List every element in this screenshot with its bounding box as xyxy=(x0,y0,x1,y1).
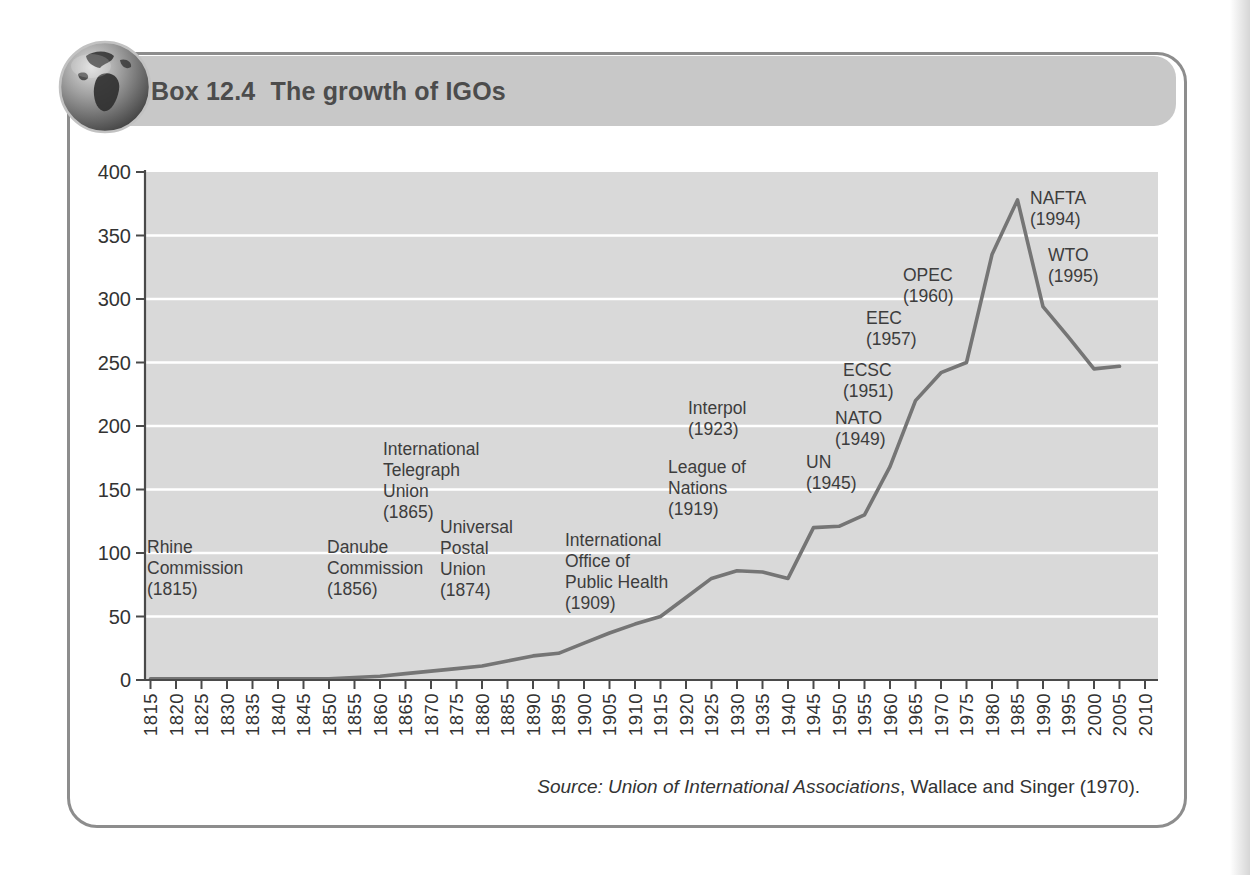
x-tick-label-2010: 2010 xyxy=(1135,693,1156,736)
source-caption-regular: , Wallace and Singer (1970). xyxy=(900,776,1140,797)
x-tick-label-1820: 1820 xyxy=(166,693,187,736)
igo-growth-chart: 0501001502002503003504001815182018251830… xyxy=(0,0,1250,875)
y-tick-label-200: 200 xyxy=(98,415,131,437)
x-tick-label-1930: 1930 xyxy=(727,693,748,736)
x-tick-label-1960: 1960 xyxy=(880,693,901,736)
x-tick-label-1825: 1825 xyxy=(191,693,212,736)
y-tick-label-0: 0 xyxy=(120,669,131,691)
annotation-interpol: Interpol(1923) xyxy=(688,398,746,439)
x-tick-label-1910: 1910 xyxy=(625,693,646,736)
x-tick-label-1980: 1980 xyxy=(982,693,1003,736)
x-tick-label-1830: 1830 xyxy=(217,693,238,736)
x-tick-label-1905: 1905 xyxy=(599,693,620,736)
x-tick-label-1935: 1935 xyxy=(752,693,773,736)
y-tick-label-250: 250 xyxy=(98,352,131,374)
y-tick-label-400: 400 xyxy=(98,161,131,183)
x-tick-label-1835: 1835 xyxy=(242,693,263,736)
y-tick-label-300: 300 xyxy=(98,288,131,310)
x-tick-label-2005: 2005 xyxy=(1109,693,1130,736)
y-tick-label-50: 50 xyxy=(109,606,131,628)
x-tick-label-1975: 1975 xyxy=(956,693,977,736)
x-tick-label-1840: 1840 xyxy=(268,693,289,736)
y-tick-label-100: 100 xyxy=(98,542,131,564)
x-tick-label-1950: 1950 xyxy=(829,693,850,736)
source-caption: Source: Union of International Associati… xyxy=(537,776,1140,798)
x-tick-label-1855: 1855 xyxy=(344,693,365,736)
x-tick-label-1925: 1925 xyxy=(701,693,722,736)
source-caption-italic: Source: Union of International Associati… xyxy=(537,776,900,797)
x-tick-label-1900: 1900 xyxy=(574,693,595,736)
x-tick-label-1865: 1865 xyxy=(395,693,416,736)
x-tick-label-1970: 1970 xyxy=(931,693,952,736)
x-tick-label-1860: 1860 xyxy=(370,693,391,736)
x-tick-label-1890: 1890 xyxy=(523,693,544,736)
x-tick-label-1985: 1985 xyxy=(1007,693,1028,736)
x-tick-label-1880: 1880 xyxy=(472,693,493,736)
x-tick-label-1920: 1920 xyxy=(676,693,697,736)
x-tick-label-2000: 2000 xyxy=(1084,693,1105,736)
x-tick-label-1995: 1995 xyxy=(1058,693,1079,736)
annotation-opec: OPEC(1960) xyxy=(903,265,954,306)
x-tick-label-1845: 1845 xyxy=(293,693,314,736)
x-tick-label-1955: 1955 xyxy=(854,693,875,736)
x-tick-label-1915: 1915 xyxy=(650,693,671,736)
x-tick-label-1895: 1895 xyxy=(548,693,569,736)
x-tick-label-1815: 1815 xyxy=(140,693,161,736)
x-tick-label-1875: 1875 xyxy=(446,693,467,736)
x-tick-label-1965: 1965 xyxy=(905,693,926,736)
y-tick-label-150: 150 xyxy=(98,479,131,501)
x-tick-label-1945: 1945 xyxy=(803,693,824,736)
x-tick-label-1885: 1885 xyxy=(497,693,518,736)
annotation-ecsc: ECSC(1951) xyxy=(843,360,894,401)
x-tick-label-1870: 1870 xyxy=(421,693,442,736)
annotation-nafta: NAFTA(1994) xyxy=(1030,188,1086,229)
annotation-nato: NATO(1949) xyxy=(835,408,886,449)
x-tick-label-1940: 1940 xyxy=(778,693,799,736)
y-tick-label-350: 350 xyxy=(98,225,131,247)
x-tick-label-1850: 1850 xyxy=(319,693,340,736)
x-tick-label-1990: 1990 xyxy=(1033,693,1054,736)
